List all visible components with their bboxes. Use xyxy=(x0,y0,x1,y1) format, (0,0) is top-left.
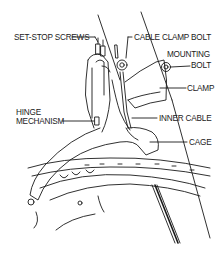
label-cable-clamp-bolt: CABLE CLAMP BOLT xyxy=(134,33,211,42)
label-mechanism: MECHANISM xyxy=(16,117,64,126)
label-cage: CAGE xyxy=(189,138,211,147)
label-mounting: MOUNTING xyxy=(167,50,210,59)
label-hinge: HINGE xyxy=(16,108,41,117)
label-inner-cable: INNER CABLE xyxy=(159,114,211,123)
label-set-stop-screws: SET-STOP SCREWS xyxy=(14,33,89,42)
derailleur-body xyxy=(62,37,110,132)
cage xyxy=(30,128,187,201)
chainring-chain xyxy=(28,158,210,230)
label-clamp: CLAMP xyxy=(187,84,214,93)
cable-clamp xyxy=(112,37,157,130)
derailleur-diagram: SET-STOP SCREWS CABLE CLAMP BOLT MOUNTIN… xyxy=(0,0,224,256)
clamp xyxy=(125,60,190,108)
label-bolt: BOLT xyxy=(191,61,211,70)
